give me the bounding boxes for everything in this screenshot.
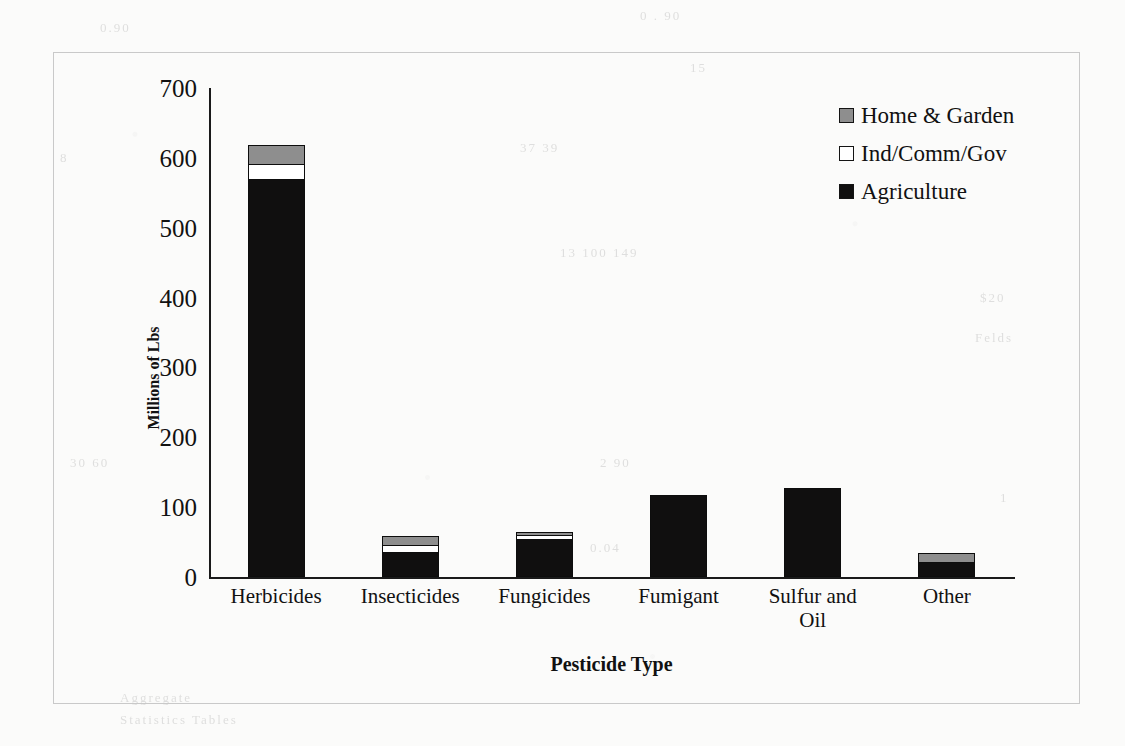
bar-segment[interactable] — [516, 539, 573, 577]
bar-segment[interactable] — [382, 552, 439, 577]
x-tick-label: Fumigant — [612, 585, 746, 609]
bar-stack[interactable] — [784, 489, 841, 577]
x-tick-label: Herbicides — [209, 585, 343, 609]
scanned-figure-page: 0 . 901537 3913 100 149$20Felds2 9010.04… — [0, 0, 1125, 746]
legend-item[interactable]: Agriculture — [839, 172, 1014, 210]
y-axis-title: Millions of Lbs — [145, 326, 163, 429]
x-tick-label: Insecticides — [343, 585, 477, 609]
y-tick-label: 200 — [160, 425, 198, 450]
bar-segment[interactable] — [248, 145, 305, 165]
bar-stack[interactable] — [248, 146, 305, 577]
x-tick-label: Fungicides — [477, 585, 611, 609]
y-tick-label: 600 — [160, 145, 198, 170]
bar-segment[interactable] — [784, 488, 841, 577]
y-tick-label: 0 — [185, 565, 198, 590]
bar-stack[interactable] — [382, 537, 439, 577]
ghost-text-fragment: 0.90 — [100, 20, 131, 36]
black-square-swatch — [839, 184, 854, 199]
x-axis-title: Pesticide Type — [209, 653, 1014, 676]
x-tick-label-line: Sulfur and — [746, 585, 880, 609]
legend-item[interactable]: Home & Garden — [839, 96, 1014, 134]
y-tick-label: 500 — [160, 215, 198, 240]
x-tick-label-line: Oil — [746, 609, 880, 633]
ghost-text-fragment: Statistics Tables — [120, 712, 238, 728]
legend-item-label: Agriculture — [861, 180, 967, 203]
x-tick-label-line: Fungicides — [477, 585, 611, 609]
bar-segment[interactable] — [248, 164, 305, 180]
x-tick-label-line: Other — [880, 585, 1014, 609]
y-tick-label: 400 — [160, 285, 198, 310]
bar-segment[interactable] — [918, 562, 975, 577]
ghost-text-fragment: 0 . 90 — [640, 8, 681, 24]
chart-frame: Millions of Lbs 7006005004003002001000 H… — [53, 52, 1080, 704]
white-square-swatch — [839, 146, 854, 161]
legend-item-label: Home & Garden — [861, 104, 1014, 127]
bar-segment[interactable] — [650, 495, 707, 577]
x-tick-label-line: Herbicides — [209, 585, 343, 609]
x-tick-label-line: Insecticides — [343, 585, 477, 609]
y-tick-label: 300 — [160, 355, 198, 380]
bar-stack[interactable] — [516, 533, 573, 577]
x-tick-label: Other — [880, 585, 1014, 609]
x-tick-label-line: Fumigant — [612, 585, 746, 609]
x-axis-line — [209, 577, 1015, 579]
bar-stack[interactable] — [650, 496, 707, 577]
legend-item[interactable]: Ind/Comm/Gov — [839, 134, 1014, 172]
gray-square-swatch — [839, 108, 854, 123]
bar-stack[interactable] — [918, 554, 975, 577]
chart-legend: Home & GardenInd/Comm/GovAgriculture — [839, 96, 1014, 210]
y-tick-label: 700 — [160, 76, 198, 101]
legend-item-label: Ind/Comm/Gov — [861, 142, 1007, 165]
bar-segment[interactable] — [248, 179, 305, 577]
y-axis-line — [209, 88, 211, 578]
y-tick-label: 100 — [160, 495, 198, 520]
x-tick-label: Sulfur andOil — [746, 585, 880, 632]
